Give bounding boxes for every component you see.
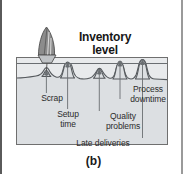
boat-keel xyxy=(46,63,47,71)
label-process-downtime: Process downtime xyxy=(123,85,173,104)
label-late-deliveries: Late deliveries xyxy=(58,139,148,149)
figure-container: Inventory level Scrap Setup time Quality… xyxy=(0,0,183,174)
page-title: Inventory level xyxy=(68,31,142,56)
label-scrap: Scrap xyxy=(33,94,71,104)
label-quality-problems: Quality problems xyxy=(98,112,148,131)
boat-rigging-2 xyxy=(51,38,52,57)
figure-caption: (b) xyxy=(2,154,183,168)
label-setup-time: Setup time xyxy=(48,110,88,129)
